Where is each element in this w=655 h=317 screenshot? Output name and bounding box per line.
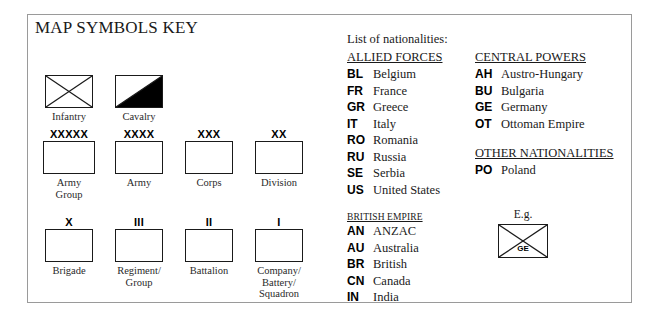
nationality-group-heading: CENTRAL POWERS [475, 50, 623, 65]
symbol-cell: Cavalry [106, 62, 172, 123]
nationality-name: British [373, 257, 407, 272]
symbol-label: Army [106, 177, 172, 189]
nationality-name: Germany [501, 100, 548, 115]
nationality-code: BR [347, 257, 373, 271]
symbol-label: Brigade [36, 265, 102, 277]
unit-size-marker: III [106, 216, 172, 229]
nationality-row: CNCanada [347, 274, 475, 291]
example-infantry-box: GE [498, 224, 548, 258]
symbol-cell: Infantry [36, 62, 102, 123]
unit-size-marker: XXXXX [36, 128, 102, 141]
nationality-code: AN [347, 224, 373, 238]
unit-size-marker: XXXX [106, 128, 172, 141]
nationality-row: BLBelgium [347, 67, 475, 84]
nationality-group-entries: BLBelgiumFRFranceGRGreeceITItalyRORomani… [347, 67, 475, 199]
nationality-row: BRBritish [347, 257, 475, 274]
nationality-name: Romania [373, 133, 418, 148]
symbol-label: Cavalry [106, 111, 172, 123]
symbol-cell: IIIRegiment/Group [106, 216, 172, 288]
nationality-group-heading: BRITISH EMPIRE [347, 212, 475, 222]
example-symbol: E.g. GE [488, 208, 558, 258]
nationality-group-heading: OTHER NATIONALITIES [475, 146, 623, 161]
symbol-cell: XXDivision [246, 128, 312, 189]
nationality-name: India [373, 290, 399, 305]
unit-symbol-box [115, 229, 163, 262]
nationalities-column-right: CENTRAL POWERSAHAustro-HungaryBUBulgaria… [475, 50, 623, 182]
unit-symbol-box [255, 141, 303, 174]
nationality-name: Bulgaria [501, 84, 544, 99]
nationality-row: RORomania [347, 133, 475, 150]
unit-symbol-box [45, 229, 93, 262]
nationality-row: RURussia [347, 150, 475, 167]
unit-symbol-box [255, 229, 303, 262]
nationality-code: BL [347, 67, 373, 81]
unit-symbol-box [115, 75, 163, 108]
nationality-row: USUnited States [347, 183, 475, 200]
symbol-cell: XXXCorps [176, 128, 242, 189]
unit-symbol-box [115, 141, 163, 174]
nationality-row: GRGreece [347, 100, 475, 117]
nationality-name: Austro-Hungary [501, 67, 583, 82]
unit-size-marker: XXX [176, 128, 242, 141]
nationality-row: SESerbia [347, 166, 475, 183]
nationality-code: OT [475, 117, 501, 131]
nationality-code: IT [347, 117, 373, 131]
nationality-code: AH [475, 67, 501, 81]
symbol-label: Company/Battery/Squadron [246, 265, 312, 300]
nationalities-intro: List of nationalities: [347, 32, 622, 47]
example-nationality-code: GE [499, 244, 547, 253]
symbol-cell: XXXXXArmyGroup [36, 128, 102, 200]
nationality-row: ANANZAC [347, 224, 475, 241]
symbol-label: Battalion [176, 265, 242, 277]
symbol-cell: XXXXArmy [106, 128, 172, 189]
nationality-row: GEGermany [475, 100, 623, 117]
nationality-row: INIndia [347, 290, 475, 307]
nationality-code: BU [475, 84, 501, 98]
nationality-row: AHAustro-Hungary [475, 67, 623, 84]
nationality-name: Ottoman Empire [501, 117, 585, 132]
nationality-name: Greece [373, 100, 408, 115]
unit-symbol-box [45, 75, 93, 108]
symbol-cell: XBrigade [36, 216, 102, 277]
nationality-row: POPoland [475, 163, 623, 180]
cavalry-diagonal-icon [116, 76, 162, 107]
nationality-code: RU [347, 150, 373, 164]
nationality-code: CN [347, 274, 373, 288]
nationality-name: Russia [373, 150, 406, 165]
symbol-cell: ICompany/Battery/Squadron [246, 216, 312, 300]
nationalities-column-left: ALLIED FORCESBLBelgiumFRFranceGRGreeceIT… [347, 50, 475, 309]
nationality-row: ITItaly [347, 117, 475, 134]
nationality-group-entries: ANANZACAUAustraliaBRBritishCNCanadaINInd… [347, 224, 475, 307]
symbol-label: Corps [176, 177, 242, 189]
nationality-code: GE [475, 100, 501, 114]
nationality-name: Belgium [373, 67, 416, 82]
page-title: MAP SYMBOLS KEY [35, 18, 198, 38]
symbol-label: Infantry [36, 111, 102, 123]
nationality-group-entries: AHAustro-HungaryBUBulgariaGEGermanyOTOtt… [475, 67, 623, 133]
symbol-label: ArmyGroup [36, 177, 102, 200]
spacer [347, 201, 475, 212]
nationality-name: United States [373, 183, 440, 198]
unit-size-marker: XX [246, 128, 312, 141]
nationality-name: Italy [373, 117, 396, 132]
nationality-name: Serbia [373, 166, 405, 181]
nationality-code: AU [347, 241, 373, 255]
nationality-row: BUBulgaria [475, 84, 623, 101]
nationality-code: US [347, 183, 373, 197]
nationalities-section: List of nationalities: ALLIED FORCESBLBe… [347, 32, 622, 50]
unit-size-marker: II [176, 216, 242, 229]
symbol-cell: IIBattalion [176, 216, 242, 277]
nationality-code: RO [347, 133, 373, 147]
nationality-name: Canada [373, 274, 410, 289]
unit-symbol-box [185, 141, 233, 174]
example-caption: E.g. [488, 208, 558, 220]
nationality-code: IN [347, 290, 373, 304]
nationality-group-heading: ALLIED FORCES [347, 50, 475, 65]
nationality-code: FR [347, 84, 373, 98]
nationality-code: SE [347, 166, 373, 180]
unit-size-marker: I [246, 216, 312, 229]
nationality-row: FRFrance [347, 84, 475, 101]
symbol-label: Regiment/Group [106, 265, 172, 288]
unit-symbol-box [43, 141, 95, 174]
nationality-name: Australia [373, 241, 419, 256]
